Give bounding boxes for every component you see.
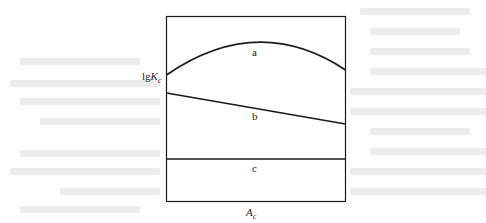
curve-b-label: b (252, 110, 258, 122)
y-axis-label-var: K (151, 70, 158, 82)
diagram-graphics (0, 0, 486, 223)
y-axis-label-sub: c (158, 76, 162, 85)
isotherm-diagram: lgKc Ac a b c (0, 0, 486, 223)
y-axis-label: lgKc (142, 70, 161, 87)
curve-a-label: a (252, 46, 257, 58)
x-axis-label-var: A (246, 206, 253, 218)
x-axis-label: Ac (246, 206, 256, 223)
curve-c-label: c (252, 162, 257, 174)
y-axis-label-base: lg (142, 70, 151, 82)
x-axis-label-sub: c (253, 212, 257, 221)
